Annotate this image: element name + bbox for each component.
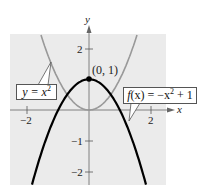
tick-label-x-2: 2 (148, 115, 154, 126)
tick-label-y-neg2: −2 (71, 167, 83, 178)
point-label: (0, 1) (92, 64, 118, 76)
callout-left-eq: y = x (22, 85, 47, 99)
callout-right-mid: = −x (145, 88, 171, 102)
y-axis-arrow-icon (87, 25, 92, 33)
callout-right: f(x) = −x2 + 1 (123, 87, 197, 104)
callout-right-post: + 1 (174, 88, 193, 102)
callout-right-arg: (x) (131, 88, 145, 102)
tick-label-x-neg2: −2 (20, 115, 32, 126)
vertex-point-marker (86, 76, 92, 82)
x-axis-arrow-icon (167, 108, 175, 113)
x-axis-label: x (177, 104, 182, 115)
y-axis-label: y (85, 14, 90, 25)
tick-label-y-2: 2 (77, 44, 83, 55)
callout-left: y = x2 (16, 84, 57, 100)
callout-left-exp: 2 (47, 84, 51, 93)
tick-label-y-neg1: −1 (71, 136, 83, 147)
